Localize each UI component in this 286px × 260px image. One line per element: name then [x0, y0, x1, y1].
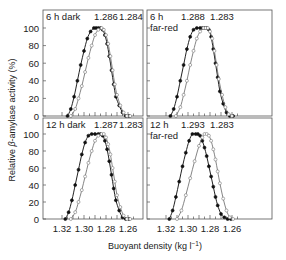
data-point-filled: [94, 133, 97, 136]
y-tick-label: 100: [23, 129, 39, 140]
data-point-open: [94, 34, 97, 37]
data-point-open: [129, 115, 132, 118]
data-point-open: [206, 27, 209, 30]
data-point-open: [105, 34, 108, 37]
peak-density-label-filled: 1.287: [94, 119, 118, 130]
panel-bottom-left: 0204060801001.321.301.281.2612 h dark1.2…: [23, 118, 143, 234]
x-tick-label: 1.28: [97, 223, 116, 234]
data-point-open: [69, 218, 72, 221]
peak-density-label-filled: 1.293: [181, 119, 205, 130]
data-point-filled: [195, 27, 198, 30]
data-point-open: [116, 93, 119, 96]
data-point-filled: [106, 148, 109, 151]
data-point-open: [207, 134, 210, 137]
data-point-filled: [216, 204, 219, 207]
data-point-open: [209, 30, 212, 33]
data-point-open: [184, 194, 187, 197]
panel-condition-label: 6 h: [150, 11, 163, 22]
data-point-filled: [64, 218, 67, 221]
data-point-filled: [168, 218, 171, 221]
data-point-filled: [79, 63, 82, 66]
panel-bottom-right: 1.321.301.281.2612 hfar-red1.2931.283: [147, 118, 272, 234]
chart-figure: 0204060801006 h dark1.2861.2846 hfar-red…: [0, 0, 286, 260]
data-point-open: [77, 97, 80, 100]
data-point-filled: [220, 212, 223, 215]
data-point-open: [107, 42, 110, 45]
data-point-open: [84, 71, 87, 74]
data-point-open: [214, 158, 217, 161]
x-tick-label: 1.32: [157, 223, 176, 234]
data-point-filled: [212, 185, 215, 188]
chart-panels: 0204060801006 h dark1.2861.2846 hfar-red…: [23, 10, 272, 234]
data-point-filled: [192, 28, 195, 31]
data-point-filled: [214, 195, 217, 198]
data-point-filled: [83, 49, 86, 52]
panel-condition-sublabel: far-red: [150, 22, 178, 33]
data-point-filled: [114, 199, 117, 202]
data-point-open: [119, 104, 122, 107]
data-point-filled: [118, 209, 121, 212]
data-point-open: [195, 37, 198, 40]
data-point-open: [192, 49, 195, 52]
data-point-filled: [184, 151, 187, 154]
data-point-open: [116, 194, 119, 197]
data-point-filled: [90, 133, 93, 136]
data-point-open: [102, 28, 105, 31]
peak-density-label-open: 1.283: [210, 119, 234, 130]
data-point-filled: [87, 134, 90, 137]
data-point-open: [189, 63, 192, 66]
data-point-filled: [178, 180, 181, 183]
data-point-open: [77, 201, 80, 204]
panel-top-left: 0204060801006 h dark1.2861.284: [23, 10, 143, 122]
panel-condition-label: 12 h: [150, 119, 169, 130]
data-point-open: [80, 189, 83, 192]
data-point-filled: [191, 133, 194, 136]
data-point-filled: [176, 95, 179, 98]
data-point-filled: [86, 37, 89, 40]
data-point-open: [215, 63, 218, 66]
x-tick-label: 1.32: [53, 223, 72, 234]
data-point-open: [217, 78, 220, 81]
panel-condition-label: 12 h dark: [46, 119, 86, 130]
data-point-open: [74, 211, 77, 214]
x-tick-label: 1.28: [201, 223, 220, 234]
data-point-open: [218, 182, 221, 185]
data-point-open: [210, 139, 213, 142]
data-point-filled: [174, 195, 177, 198]
y-tick-label: 40: [28, 75, 39, 86]
data-point-filled: [110, 173, 113, 176]
data-point-open: [125, 115, 128, 118]
data-point-filled: [108, 160, 111, 163]
peak-density-label-open: 1.283: [119, 119, 143, 130]
data-point-open: [216, 170, 219, 173]
panel-top-right: 6 hfar-red1.2881.283: [147, 10, 272, 118]
data-point-filled: [77, 168, 80, 171]
y-tick-label: 80: [28, 40, 39, 51]
series-line-filled: [68, 28, 130, 117]
data-point-filled: [207, 165, 210, 168]
data-point-open: [227, 113, 230, 116]
data-point-filled: [171, 209, 174, 212]
data-point-filled: [223, 216, 226, 219]
data-point-filled: [70, 199, 73, 202]
data-point-filled: [181, 165, 184, 168]
data-point-open: [109, 55, 112, 58]
data-point-open: [174, 115, 177, 118]
data-point-open: [122, 111, 125, 114]
data-point-open: [87, 161, 90, 164]
y-tick-label: 60: [28, 58, 39, 69]
data-point-open: [74, 107, 77, 110]
y-tick-label: 60: [28, 163, 39, 174]
data-point-filled: [185, 48, 188, 51]
panel-frame: [43, 10, 143, 116]
data-point-filled: [189, 35, 192, 38]
data-point-filled: [66, 115, 69, 118]
y-tick-label: 80: [28, 146, 39, 157]
data-point-open: [97, 28, 100, 31]
data-point-open: [213, 49, 216, 52]
data-point-open: [119, 206, 122, 209]
data-point-open: [180, 209, 183, 212]
data-point-open: [111, 69, 114, 72]
data-point-open: [198, 144, 201, 147]
data-point-open: [201, 136, 204, 139]
